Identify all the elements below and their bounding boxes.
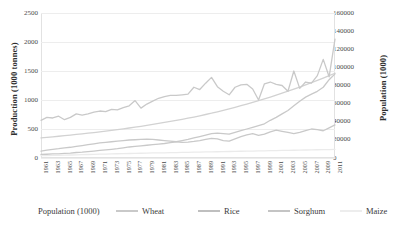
x-axis-tick-label: 1999 — [267, 161, 273, 173]
x-axis-tick-label: 1985 — [184, 161, 190, 173]
y-axis-right-tick-label: 40000 — [333, 118, 369, 125]
plot-area — [41, 13, 335, 158]
x-axis-tick-label: 1987 — [196, 161, 202, 173]
x-axis-tick-label: 1981 — [161, 161, 167, 173]
x-axis-tick-label: 2007 — [314, 161, 320, 173]
x-axis-tick-label: 1993 — [231, 161, 237, 173]
x-axis-tick-label: 2005 — [302, 161, 308, 173]
x-axis-tick-label: 1969 — [90, 161, 96, 173]
x-axis-tick-label: 1983 — [173, 161, 179, 173]
x-axis-tick-label: 1973 — [114, 161, 120, 173]
legend-swatch — [198, 210, 220, 212]
legend-item-rice[interactable]: Rice — [198, 206, 240, 216]
y-axis-right-tick-label: 20000 — [333, 136, 369, 143]
y-axis-left-tick-label: 500 — [8, 126, 38, 133]
legend-item-population-1000[interactable]: Population (1000) — [38, 206, 100, 216]
legend-label: Wheat — [142, 206, 164, 216]
x-axis-tick-label: 1963 — [55, 161, 61, 173]
y-axis-right-tick-label: 160000 — [333, 10, 369, 17]
x-axis-tick-label: 1967 — [78, 161, 84, 173]
y-axis-left-tick-label: 0 — [8, 155, 38, 162]
chart-legend: Population (1000)WheatRiceSorghumMaize — [0, 200, 394, 226]
x-axis-tick-label: 1971 — [102, 161, 108, 173]
legend-item-wheat[interactable]: Wheat — [116, 206, 164, 216]
x-axis-ticks: 1961196319651967196919711973197519771979… — [41, 159, 335, 195]
y-axis-left-tick-label: 2500 — [8, 10, 38, 17]
legend-swatch — [268, 210, 290, 212]
legend-swatch — [340, 210, 362, 212]
x-axis-tick-label: 2001 — [278, 161, 284, 173]
x-axis-tick-label: 1997 — [255, 161, 261, 173]
y-axis-left-tick-label: 2000 — [8, 39, 38, 46]
x-axis-tick-label: 2011 — [337, 161, 343, 173]
y-axis-right-tick-label: 60000 — [333, 100, 369, 107]
y-axis-left-tick-label: 1500 — [8, 68, 38, 75]
x-axis-tick-label: 1977 — [137, 161, 143, 173]
x-axis-tick-label: 1965 — [67, 161, 73, 173]
legend-swatch — [116, 210, 138, 212]
x-axis-tick-label: 2003 — [290, 161, 296, 173]
x-axis-tick-label: 1975 — [126, 161, 132, 173]
x-axis-tick-label: 1989 — [208, 161, 214, 173]
y-axis-right-ticks: 0200004000060000800001000001200001400001… — [333, 0, 369, 232]
y-axis-right-tick-label: 120000 — [333, 46, 369, 53]
y-axis-right-title: Population (1000) — [378, 23, 388, 153]
y-axis-right-tick-label: 80000 — [333, 82, 369, 89]
y-axis-left-tick-label: 1000 — [8, 97, 38, 104]
x-axis-tick-label: 1961 — [43, 161, 49, 173]
x-axis-tick-label: 2009 — [325, 161, 331, 173]
gridlines — [41, 13, 335, 158]
y-axis-right-tick-label: 100000 — [333, 64, 369, 71]
y-axis-right-tick-label: 140000 — [333, 28, 369, 35]
y-axis-left-ticks: 05001000150020002500 — [8, 0, 38, 232]
legend-label: Maize — [366, 206, 387, 216]
x-axis-tick-label: 1991 — [220, 161, 226, 173]
chart-container: Production (1000 tonnes) Population (100… — [0, 0, 394, 232]
x-axis-tick-label: 1979 — [149, 161, 155, 173]
legend-label: Rice — [224, 206, 240, 216]
legend-item-sorghum[interactable]: Sorghum — [268, 206, 325, 216]
series-lines — [41, 39, 335, 156]
legend-item-maize[interactable]: Maize — [340, 206, 387, 216]
x-axis-tick-label: 1995 — [243, 161, 249, 173]
legend-label: Population (1000) — [38, 206, 100, 216]
legend-label: Sorghum — [294, 206, 325, 216]
